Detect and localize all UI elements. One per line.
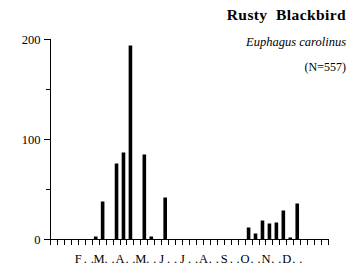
x-axis-dot-label: .	[250, 252, 253, 266]
bar	[254, 234, 258, 240]
x-axis-dot-label: .	[174, 252, 177, 266]
bar-series	[94, 46, 299, 240]
x-axis-dot-label: .	[299, 252, 302, 266]
x-axis-dot-label: .	[167, 252, 170, 266]
bar	[282, 211, 286, 240]
bar	[149, 237, 153, 240]
y-axis-tick-label: 100	[22, 133, 41, 147]
x-axis-dot-label: .	[292, 252, 295, 266]
x-axis-month-label: J	[180, 252, 185, 266]
x-axis-month-label: S	[221, 252, 228, 266]
y-axis-tick-label: 0	[34, 233, 40, 247]
x-axis-dot-label: .	[237, 252, 240, 266]
x-axis-dot-label: .	[230, 252, 233, 266]
plot-area: 0100200 F..M..A..M..J..J..A..S..O..N..D.…	[0, 0, 358, 279]
x-axis-dot-label: .	[125, 252, 128, 266]
x-axis-month-label: M	[94, 252, 105, 266]
bar	[94, 237, 98, 240]
x-axis-dot-label: .	[216, 252, 219, 266]
x-axis-dot-label: .	[271, 252, 274, 266]
y-axis-tick-label: 200	[22, 33, 41, 47]
x-axis-dot-label: .	[153, 252, 156, 266]
bar	[122, 153, 126, 240]
bar	[129, 46, 133, 240]
bar	[261, 221, 265, 240]
x-axis-dot-label: .	[278, 252, 281, 266]
x-axis-dot-label: .	[146, 252, 149, 266]
x-axis-dot-label: .	[84, 252, 87, 266]
x-axis-dot-label: .	[209, 252, 212, 266]
x-axis-month-label: D	[282, 252, 291, 266]
x-axis	[51, 240, 329, 245]
bar	[247, 228, 251, 240]
bar	[115, 164, 119, 240]
bar	[143, 155, 147, 240]
x-axis-month-label: N	[261, 252, 270, 266]
bar	[163, 198, 167, 240]
x-axis-dot-label: .	[111, 252, 114, 266]
bar	[295, 204, 299, 240]
y-axis: 0100200	[22, 33, 51, 247]
x-axis-month-label: J	[159, 252, 164, 266]
x-axis-dot-label: .	[188, 252, 191, 266]
bar	[268, 224, 272, 240]
chart-figure: Rusty Blackbird Euphagus carolinus (N=55…	[0, 0, 358, 279]
x-axis-month-label: M	[135, 252, 146, 266]
x-axis-month-label: F	[75, 252, 82, 266]
x-axis-dot-label: .	[257, 252, 260, 266]
x-axis-labels: F..M..A..M..J..J..A..S..O..N..D..	[75, 252, 302, 266]
bar	[275, 223, 279, 240]
x-axis-month-label: A	[199, 252, 208, 266]
x-axis-month-label: O	[241, 252, 250, 266]
bar	[101, 202, 105, 240]
x-axis-month-label: A	[115, 252, 124, 266]
x-axis-dot-label: .	[195, 252, 198, 266]
x-axis-dot-label: .	[105, 252, 108, 266]
bar	[288, 238, 292, 240]
